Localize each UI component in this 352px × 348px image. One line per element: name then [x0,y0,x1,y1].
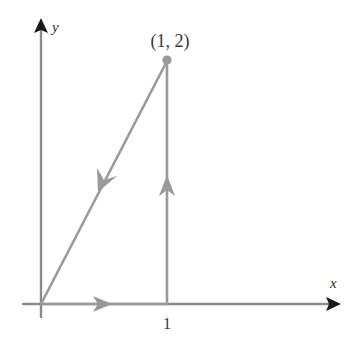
axes-group [22,18,341,318]
x-tick-label-1: 1 [163,315,171,332]
diagram-canvas: (1, 2) 1 x y [0,0,352,348]
vector-diagram: (1, 2) 1 x y [0,0,352,348]
vectors-group [41,61,175,312]
x-axis-label: x [329,275,337,291]
point-label: (1, 2) [151,31,190,52]
y-axis-label: y [50,19,59,35]
resultant-arrowhead-icon [97,168,117,192]
point-marker [162,55,171,64]
